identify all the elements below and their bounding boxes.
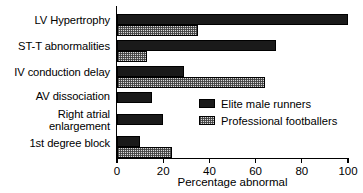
bar-elite-right-atrial-enlargement: [117, 114, 163, 125]
bar-elite-lv-hypertrophy: [117, 14, 348, 25]
x-tick: [301, 158, 302, 163]
legend-item-elite-male-runners: Elite male runners: [199, 96, 337, 111]
x-tick: [347, 158, 348, 163]
category-axis-labels: LV Hypertrophy ST-T abnormalities IV con…: [0, 0, 114, 158]
legend-item-professional-footballers: Professional footballers: [199, 113, 337, 128]
legend-swatch-icon-elite: [199, 99, 215, 108]
x-tick: [209, 158, 210, 163]
category-label: IV conduction delay: [14, 67, 110, 79]
plot-area: [117, 6, 348, 158]
x-tick: [163, 158, 164, 163]
bar-pro-st-t-abnormalities: [117, 51, 147, 62]
bar-pro-lv-hypertrophy: [117, 25, 198, 36]
bar-elite-1st-degree-block: [117, 136, 140, 147]
bar-elite-av-dissociation: [117, 92, 152, 103]
x-axis-line: [116, 158, 348, 159]
category-label: 1st degree block: [30, 138, 111, 150]
legend-label: Professional footballers: [221, 115, 337, 127]
category-label: Right atrial enlargement: [49, 109, 110, 132]
legend-label: Elite male runners: [221, 98, 311, 110]
x-tick: [116, 158, 117, 163]
category-label: AV dissociation: [36, 91, 110, 103]
bar-chart: LV Hypertrophy ST-T abnormalities IV con…: [0, 0, 363, 193]
x-tick: [255, 158, 256, 163]
bar-pro-iv-conduction-delay: [117, 77, 265, 88]
x-axis-title: Percentage abnormal: [117, 176, 348, 189]
bar-pro-1st-degree-block: [117, 147, 172, 158]
chart-legend: Elite male runners Professional football…: [199, 96, 337, 130]
category-label: LV Hypertrophy: [35, 15, 111, 27]
category-label: ST-T abnormalities: [18, 41, 110, 53]
legend-swatch-icon-pro: [199, 116, 215, 125]
bar-elite-iv-conduction-delay: [117, 66, 184, 77]
bar-elite-st-t-abnormalities: [117, 40, 276, 51]
